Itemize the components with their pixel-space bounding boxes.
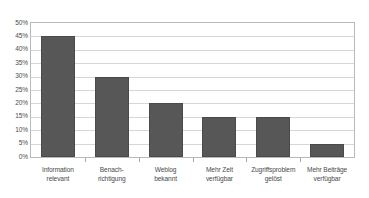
category-label: Weblogbekannt xyxy=(139,165,193,183)
y-axis-tick-label: 5% xyxy=(2,140,28,147)
bar-slot xyxy=(300,23,354,157)
category-label-line: bekannt xyxy=(139,174,193,183)
y-axis-tick-label: 40% xyxy=(2,46,28,53)
bars-layer xyxy=(31,23,354,157)
bar-slot xyxy=(139,23,193,157)
y-axis-tick-label: 45% xyxy=(2,33,28,40)
category-label: Benach-richtigung xyxy=(85,165,139,183)
bar-slot xyxy=(193,23,247,157)
category-tick-mark xyxy=(300,158,301,162)
bar-slot xyxy=(246,23,300,157)
bar xyxy=(149,103,183,157)
category-label-line: Information xyxy=(31,165,85,174)
y-axis-tick-label: 25% xyxy=(2,87,28,94)
category-label-line: richtigung xyxy=(85,174,139,183)
category-label-line: Benach- xyxy=(85,165,139,174)
category-label-line: Mehr Beiträge xyxy=(300,165,354,174)
category-label: Informationrelevant xyxy=(31,165,85,183)
category-label-line: relevant xyxy=(31,174,85,183)
category-tick-mark xyxy=(85,158,86,162)
category-label: Mehr Zeitverfügbar xyxy=(193,165,247,183)
bar xyxy=(310,144,344,157)
y-axis-tick-label: 30% xyxy=(2,73,28,80)
category-label: Mehr Beiträgeverfügbar xyxy=(300,165,354,183)
bar xyxy=(256,117,290,157)
y-axis-tick-label: 20% xyxy=(2,100,28,107)
category-label: Zugriffsproblemgelöst xyxy=(246,165,300,183)
category-tick-mark xyxy=(139,158,140,162)
y-axis-tick-label: 50% xyxy=(2,20,28,27)
category-label-line: verfügbar xyxy=(300,174,354,183)
bar-slot xyxy=(31,23,85,157)
category-tick-mark xyxy=(193,158,194,162)
category-label-line: verfügbar xyxy=(193,174,247,183)
bar-chart: 50%45%40%35%30%25%20%15%10%5%0% Informat… xyxy=(0,0,369,198)
y-axis-tick-label: 35% xyxy=(2,60,28,67)
x-axis-category-labels: InformationrelevantBenach-richtigungWebl… xyxy=(31,165,354,183)
bar xyxy=(41,36,75,157)
category-tick-mark xyxy=(246,158,247,162)
category-label-line: gelöst xyxy=(246,174,300,183)
y-axis-tick-label: 15% xyxy=(2,113,28,120)
category-label-line: Mehr Zeit xyxy=(193,165,247,174)
bar-slot xyxy=(85,23,139,157)
bar xyxy=(95,77,129,157)
category-label-line: Weblog xyxy=(139,165,193,174)
bar xyxy=(202,117,236,157)
y-axis-tick-label: 10% xyxy=(2,127,28,134)
y-axis-tick-label: 0% xyxy=(2,154,28,161)
category-label-line: Zugriffsproblem xyxy=(246,165,300,174)
